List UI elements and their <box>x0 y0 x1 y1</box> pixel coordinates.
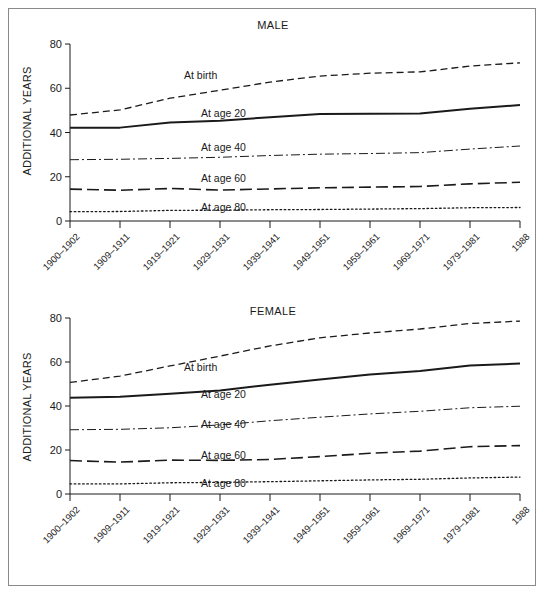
x-tick-label: 1959–1961 <box>340 504 381 545</box>
x-tick-label: 1900–1902 <box>40 504 81 545</box>
x-tick-label: 1919–1921 <box>140 231 181 272</box>
figure-frame: MALE ADDITIONAL YEARS 020406080 1900–190… <box>8 8 536 586</box>
series-label-at-age-60-female: At age 60 <box>201 449 246 461</box>
x-tick-label: 1959–1961 <box>340 231 381 272</box>
series-label-at-age-20-female: At age 20 <box>201 388 246 400</box>
series-label-at-age-40-female: At age 40 <box>201 418 246 430</box>
series-label-at-age-20-male: At age 20 <box>201 107 246 119</box>
x-tick-label: 1979–1981 <box>440 231 481 272</box>
x-tick-label: 1939–1941 <box>240 231 281 272</box>
x-tick-label: 1969–1971 <box>390 504 431 545</box>
series-label-at-age-80-female: At age 80 <box>201 477 246 489</box>
x-tick-label: 1929–1931 <box>190 231 231 272</box>
x-tick-label: 1939–1941 <box>240 504 281 545</box>
series-label-at-age-60-male: At age 60 <box>201 172 246 184</box>
x-tick-label: 1909–1911 <box>91 504 132 545</box>
series-label-at-birth-female: At birth <box>184 361 217 373</box>
series-label-at-birth-male: At birth <box>184 69 217 81</box>
x-tick-label: 1949–1951 <box>290 504 331 545</box>
series-label-at-age-80-male: At age 80 <box>201 201 246 213</box>
x-tick-label: 1969–1971 <box>390 231 431 272</box>
chart-panel-female: FEMALE ADDITIONAL YEARS 020406080 1900–1… <box>9 297 537 585</box>
chart-panel-male: MALE ADDITIONAL YEARS 020406080 1900–190… <box>9 11 537 297</box>
x-tick-label: 1929–1931 <box>190 504 231 545</box>
x-tick-label: 1988 <box>509 504 532 527</box>
x-tick-labels-male: 1900–19021909–19111919–19211929–19311939… <box>9 11 537 297</box>
x-tick-label: 1979–1981 <box>440 504 481 545</box>
x-tick-label: 1909–1911 <box>91 231 132 272</box>
x-tick-label: 1900–1902 <box>40 231 81 272</box>
series-label-at-age-40-male: At age 40 <box>201 141 246 153</box>
x-tick-labels-female: 1900–19021909–19111919–19211929–19311939… <box>9 297 537 585</box>
x-tick-label: 1919–1921 <box>140 504 181 545</box>
x-tick-label: 1988 <box>509 231 532 254</box>
x-tick-label: 1949–1951 <box>290 231 331 272</box>
